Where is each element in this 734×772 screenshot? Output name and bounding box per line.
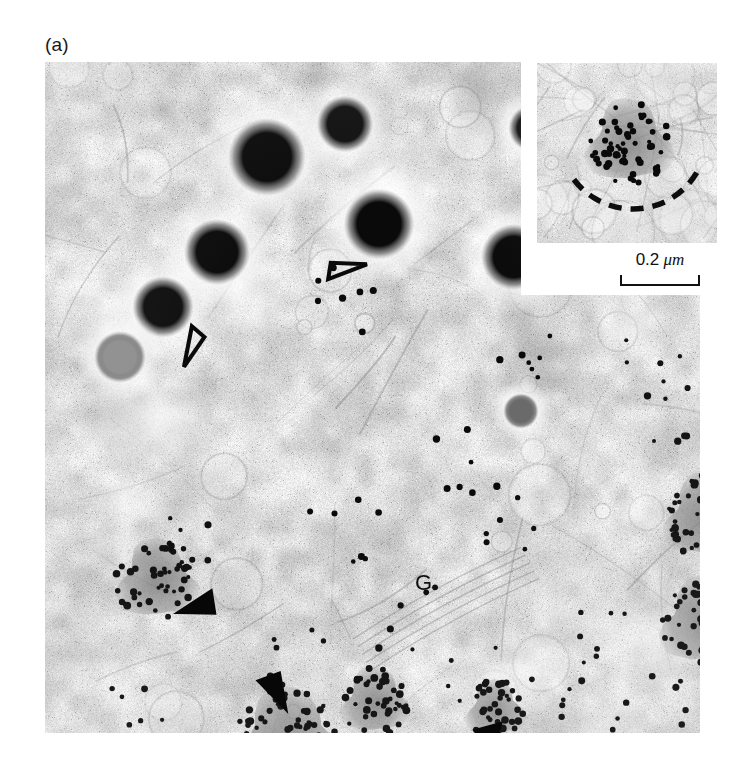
open-arrowhead-icon-2 [161,314,229,382]
scale-bar-label: 0.2 μm [618,250,702,270]
scale-bar: 0.2 μm [618,250,702,290]
filled-arrowhead-icon-2 [244,651,316,723]
scale-bar-value: 0.2 [636,250,660,269]
arrow-icon [419,693,523,733]
panel-label: (a) [45,34,69,56]
scale-bar-bracket [620,275,700,286]
golgi-label: G [415,570,432,596]
filled-arrowhead-icon-1 [165,575,237,647]
inset-micrograph-canvas [537,63,717,243]
open-arrowhead-icon-1 [311,231,379,299]
inset-micrograph [537,63,717,243]
inset-panel: 0.2 μm [521,47,734,295]
scale-bar-unit: μm [659,250,684,269]
